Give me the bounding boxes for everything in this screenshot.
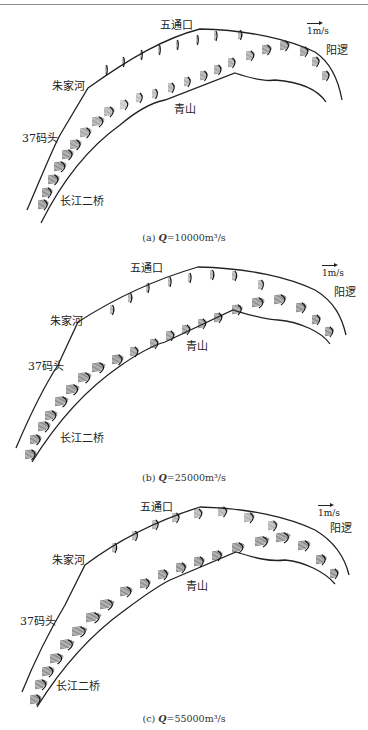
velocity-profile-glyph (158, 45, 161, 55)
scale-label: 1m/s (318, 508, 340, 518)
velocity-profile-glyph (152, 89, 158, 99)
velocity-profile-glyph (330, 569, 339, 579)
velocity-profile-glyph (194, 509, 203, 519)
velocity-profile-glyph (100, 599, 114, 610)
velocity-profile-glyph (45, 411, 58, 421)
velocity-profile-glyph (30, 435, 42, 445)
velocity-profile-glyph (62, 150, 74, 160)
velocity-profile-glyph (140, 50, 143, 60)
velocity-profile-glyph (176, 40, 179, 50)
velocity-profile-glyph (112, 355, 124, 365)
label-wutongkou: 五通口 (140, 502, 173, 514)
velocity-profile-glyph (42, 667, 55, 677)
velocity-profile-glyph (152, 520, 159, 530)
velocity-profile-glyph (136, 93, 143, 103)
velocity-profile-glyph (128, 293, 133, 303)
velocity-profile-glyph (60, 639, 74, 650)
velocity-profile-glyph (105, 65, 108, 75)
velocity-profile-glyph (232, 271, 237, 281)
label-wutongkou: 五通口 (130, 263, 163, 275)
velocity-profile-glyph (214, 31, 218, 41)
velocity-profile-glyph (55, 397, 69, 407)
velocity-profile-glyph (325, 327, 334, 337)
panel-b: 五通口 朱家河 37码头 长江二桥 青山 阳逻 1m/s (b) Q=25000… (0, 240, 368, 480)
velocity-profile-glyph (122, 57, 125, 67)
label-zhujiahe: 朱家河 (50, 316, 83, 328)
velocity-profile-glyph (120, 100, 129, 110)
velocity-profile-glyph (298, 541, 311, 551)
label-yangluo: 阳逻 (334, 287, 356, 299)
velocity-profile-glyph (158, 570, 169, 580)
scale-label: 1m/s (322, 268, 344, 278)
caption-c: (c) Q=55000m³/s (0, 713, 368, 724)
velocity-profile-glyph (232, 305, 243, 315)
velocity-profile-glyph (184, 77, 191, 87)
velocity-profile-glyph (54, 162, 67, 172)
label-yangluo: 阳逻 (330, 523, 352, 535)
label-qingshan: 青山 (186, 341, 208, 353)
velocity-profile-glyph (70, 140, 82, 150)
label-zhujiahe: 朱家河 (52, 81, 85, 93)
label-37matou: 37码头 (20, 616, 56, 628)
caption-prefix: (c) (142, 713, 158, 724)
scale-arrow: 1m/s (318, 502, 340, 518)
panel-a: 五通口 朱家河 37码头 长江二桥 青山 阳逻 1m/s (a) Q=10000… (0, 0, 368, 240)
velocity-profile-glyph (274, 295, 287, 305)
arrow-right-icon (322, 262, 338, 268)
scale-arrow: 1m/s (322, 262, 344, 278)
velocity-profile-glyph (262, 45, 272, 55)
velocity-profile-glyph (276, 532, 290, 543)
velocity-profile-glyph (312, 315, 321, 325)
velocity-profile-glyph (92, 117, 105, 127)
river-velocity-field-a (0, 0, 368, 240)
velocity-profile-glyph (92, 363, 106, 373)
velocity-profile-glyph (232, 543, 245, 553)
label-37matou: 37码头 (28, 361, 64, 373)
velocity-profile-glyph (120, 587, 133, 597)
label-changjiang-bridge: 长江二桥 (56, 681, 100, 693)
velocity-profile-glyph (196, 35, 199, 45)
scale-label: 1m/s (307, 26, 329, 36)
velocity-profile-glyph (296, 303, 307, 313)
label-changjiang-bridge: 长江二桥 (60, 433, 104, 445)
velocity-profile-glyph (140, 579, 151, 589)
velocity-profile-glyph (66, 385, 80, 395)
velocity-profile-glyph (252, 298, 265, 308)
velocity-profile-glyph (48, 175, 60, 185)
velocity-profile-glyph (38, 200, 49, 210)
velocity-profile-glyph (104, 107, 115, 117)
velocity-profile-glyph (80, 128, 92, 138)
velocity-profile-glyph (258, 280, 264, 290)
velocity-profile-glyph (228, 58, 236, 68)
velocity-profile-glyph (110, 305, 115, 315)
velocity-profile-glyph (182, 325, 191, 335)
velocity-profile-glyph (42, 188, 53, 198)
velocity-profile-glyph (72, 626, 87, 637)
velocity-profile-glyph (200, 71, 208, 81)
velocity-profile-glyph (78, 373, 92, 383)
velocity-profile-glyph (35, 680, 48, 690)
velocity-profile-glyph (86, 612, 101, 623)
label-qingshan: 青山 (186, 581, 208, 593)
velocity-profile-glyph (255, 536, 269, 547)
panel-c: 五通口 朱家河 37码头 长江二桥 青山 阳逻 1m/s (c) Q=55000… (0, 480, 368, 730)
label-wutongkou: 五通口 (160, 20, 193, 32)
label-zhujiahe: 朱家河 (52, 555, 85, 567)
velocity-profile-glyph (50, 654, 64, 664)
velocity-profile-glyph (176, 563, 187, 573)
velocity-profile-glyph (168, 277, 172, 287)
velocity-profile-glyph (268, 521, 278, 531)
label-changjiang-bridge: 长江二桥 (60, 196, 104, 208)
velocity-profile-glyph (244, 513, 255, 523)
velocity-profile-glyph (130, 347, 139, 357)
velocity-profile-glyph (312, 57, 320, 67)
velocity-profile-glyph (210, 270, 215, 280)
caption-value: =55000m³/s (166, 713, 225, 724)
velocity-profile-glyph (322, 71, 330, 81)
label-yangluo: 阳逻 (326, 45, 348, 57)
label-qingshan: 青山 (174, 104, 196, 116)
arrow-right-icon (307, 20, 323, 26)
velocity-profile-glyph (316, 555, 327, 565)
velocity-profile-glyph (150, 339, 159, 349)
velocity-profile-glyph (188, 273, 192, 283)
